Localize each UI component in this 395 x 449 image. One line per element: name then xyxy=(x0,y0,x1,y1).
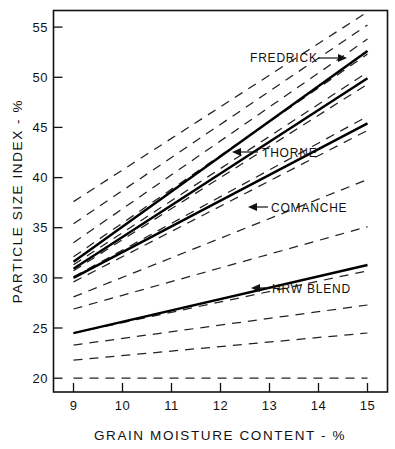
x-tick-label: 12 xyxy=(213,398,228,413)
x-tick-label: 11 xyxy=(164,398,179,413)
series-label-comanche: COMANCHE xyxy=(271,201,347,215)
x-tick-label: 9 xyxy=(70,398,78,413)
y-axis-title: PARTICLE SIZE INDEX - % xyxy=(10,99,25,303)
chart-figure: 55 50 45 40 35 30 25 20 9 10 11 12 13 14 xyxy=(0,0,395,449)
series-label-hrw-blend: HRW BLEND xyxy=(272,282,351,296)
series-line-hrw-blend xyxy=(74,265,368,333)
y-tick-label: 30 xyxy=(33,271,48,286)
series-label-fredrick: FREDRICK xyxy=(250,51,318,65)
y-axis-ticks xyxy=(54,27,63,378)
sample-line xyxy=(74,84,368,271)
y-tick-label: 20 xyxy=(33,371,48,386)
y-tick-label: 55 xyxy=(33,20,48,35)
x-axis-title: GRAIN MOISTURE CONTENT - % xyxy=(94,428,346,443)
x-axis-tick-labels: 9 10 11 12 13 14 15 xyxy=(70,398,376,413)
sample-line xyxy=(74,72,368,265)
sample-line xyxy=(74,305,368,345)
y-tick-label: 50 xyxy=(33,70,48,85)
x-tick-label: 10 xyxy=(115,398,130,413)
y-axis-tick-labels: 55 50 45 40 35 30 25 20 xyxy=(33,20,48,386)
particle-size-index-chart: 55 50 45 40 35 30 25 20 9 10 11 12 13 14 xyxy=(0,0,395,449)
x-tick-label: 14 xyxy=(311,398,326,413)
x-tick-label: 15 xyxy=(360,398,375,413)
y-tick-label: 40 xyxy=(33,170,48,185)
y-tick-label: 45 xyxy=(33,120,48,135)
y-tick-label: 25 xyxy=(33,321,48,336)
annotation-fredrick: FREDRICK xyxy=(250,51,347,65)
series-label-thorne: THORNE xyxy=(262,146,317,160)
sample-line xyxy=(74,25,368,224)
x-tick-label: 13 xyxy=(262,398,277,413)
sample-line xyxy=(74,333,368,360)
series-line-fredrick xyxy=(74,51,368,262)
y-tick-label: 35 xyxy=(33,220,48,235)
x-axis-ticks xyxy=(74,383,368,392)
annotation-comanche: COMANCHE xyxy=(248,201,347,215)
